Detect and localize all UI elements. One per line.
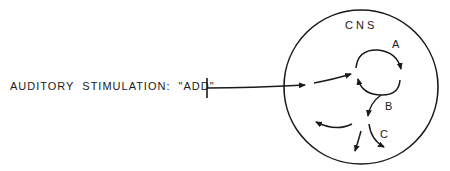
loop-return-arrow [358, 79, 400, 95]
cns-label: CNS [345, 19, 377, 31]
diagram-canvas: AUDITORY STIMULATION: "ADD" CNS A B C [0, 0, 450, 171]
left-branch-arrow [316, 122, 352, 128]
input-arrow-segment-1 [207, 85, 305, 88]
loop-a-arrow [356, 50, 401, 69]
pathway-b-arrow [368, 95, 381, 116]
pathway-c-label: C [380, 128, 389, 140]
pathway-a-label: A [392, 38, 400, 50]
input-arrow-segment-2 [314, 74, 351, 83]
stimulus-label: AUDITORY STIMULATION: "ADD" [10, 80, 215, 92]
down-branch-arrow [355, 131, 361, 151]
pathway-b-label: B [385, 100, 393, 112]
